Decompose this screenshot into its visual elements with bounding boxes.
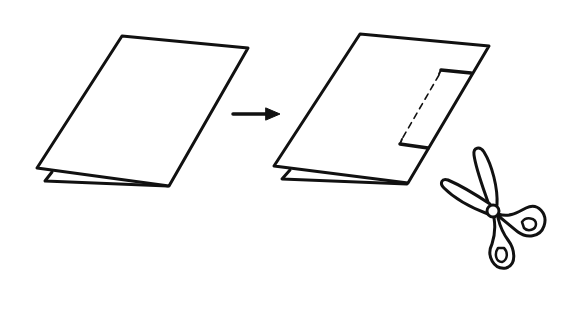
front-sheet — [37, 36, 248, 186]
front-sheet — [274, 34, 489, 183]
diagram-canvas: Folded paper cut instruction — [0, 0, 577, 315]
folded-paper-step-2 — [274, 34, 489, 184]
scissors-icon — [441, 148, 544, 268]
arrow-right-icon — [233, 108, 280, 120]
folded-paper-step-1 — [37, 36, 248, 186]
